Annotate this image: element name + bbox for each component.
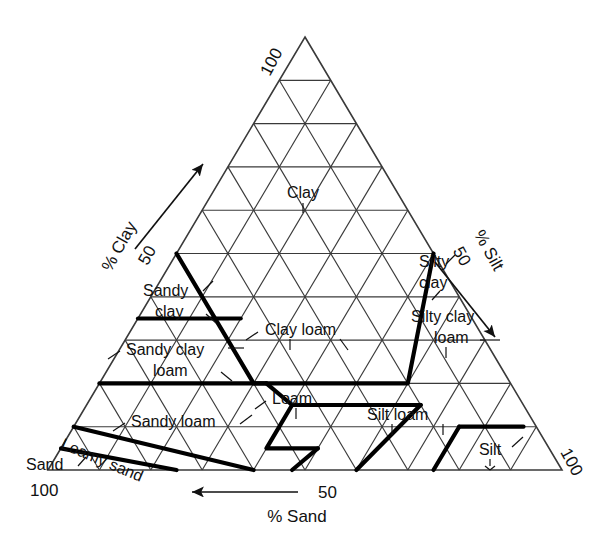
left-100-label: 100	[30, 481, 58, 500]
leader-sandy-loam-2	[240, 415, 252, 424]
grid-l-70	[228, 167, 408, 470]
label-sandy-clay-loam-line2: loam	[153, 362, 188, 379]
clay-axis-label: % Clay	[98, 218, 141, 275]
label-sandy-clay-line1: Sandy	[143, 282, 188, 299]
label-silt: Silt	[479, 441, 502, 458]
sand-axis-label: % Sand	[267, 507, 327, 526]
label-clay: Clay	[287, 184, 319, 201]
label-silt-loam: Silt loam	[367, 406, 428, 423]
label-sandy-clay-loam-line1: Sandy clay	[126, 341, 204, 358]
label-sandy-loam: Sandy loam	[131, 413, 216, 430]
silt-axis-label: % Silt	[470, 227, 508, 274]
grid-r-10	[511, 427, 537, 470]
leader-clay-loam-3	[246, 332, 258, 340]
soil-texture-triangle: 100 100 100 50 50 50 % Clay % Silt % San…	[0, 0, 598, 538]
grid-r-50	[305, 254, 434, 471]
sand-50-tick: 50	[318, 483, 337, 502]
leader-loam-2	[255, 401, 266, 409]
clay-axis-arrow	[135, 164, 203, 249]
right-100-label: 100	[556, 445, 586, 479]
label-sand: Sand	[26, 456, 63, 473]
label-silty-clay-line2: clay	[419, 274, 447, 291]
grid-lines	[74, 80, 537, 470]
label-silty-clay-loam-line2: loam	[434, 329, 469, 346]
leader-silt-4	[512, 437, 523, 447]
grid-l-30	[125, 340, 202, 470]
leader-sandy-clay-loam-3	[221, 372, 232, 381]
leader-silty-clay-2	[432, 291, 440, 300]
label-sandy-clay-line2: clay	[155, 303, 183, 320]
silt-50-tick: 50	[449, 243, 475, 269]
leader-sandy-clay	[203, 281, 213, 291]
label-loam: Loam	[272, 390, 312, 407]
boundary-loam-right	[292, 448, 318, 470]
label-silty-clay-line1: Silty	[419, 253, 449, 270]
label-silty-clay-loam-line1: Silty clay	[411, 308, 474, 325]
class-labels: Clay Silty clay Sandy clay Clay loam Sil…	[26, 184, 523, 485]
label-clay-loam: Clay loam	[265, 321, 336, 338]
apex-100-label: 100	[256, 45, 286, 79]
